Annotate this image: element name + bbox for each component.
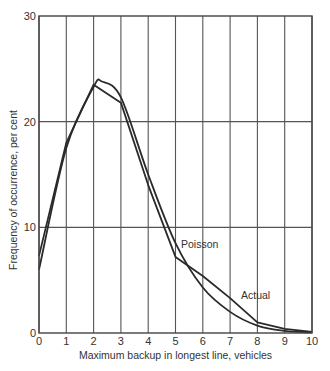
x-tick-label: 1 [63, 335, 69, 347]
x-tick-label: 8 [254, 335, 260, 347]
x-tick-label: 9 [282, 335, 288, 347]
x-tick-label: 2 [91, 335, 97, 347]
y-tick-label: 10 [24, 221, 36, 233]
x-tick-label: 10 [306, 335, 318, 347]
poisson-vs-actual-chart: 0102030 012345678910 PoissonActual Maxim… [0, 0, 330, 371]
x-tick-label: 6 [200, 335, 206, 347]
x-axis-label: Maximum backup in longest line, vehicles [79, 349, 272, 361]
x-tick-label: 5 [172, 335, 178, 347]
y-tick-label: 20 [24, 116, 36, 128]
x-tick-label: 3 [118, 335, 124, 347]
y-axis-tick-labels: 0102030 [24, 10, 36, 339]
y-axis-label: Frequency of occurrence, per cent [7, 110, 19, 270]
x-tick-label: 0 [36, 335, 42, 347]
annotation-poisson: Poisson [181, 238, 219, 250]
annotation-actual: Actual [241, 289, 270, 301]
x-tick-label: 4 [145, 335, 151, 347]
y-tick-label: 30 [24, 10, 36, 22]
gridlines [39, 16, 312, 333]
x-tick-label: 7 [227, 335, 233, 347]
x-axis-tick-labels: 012345678910 [36, 335, 318, 347]
